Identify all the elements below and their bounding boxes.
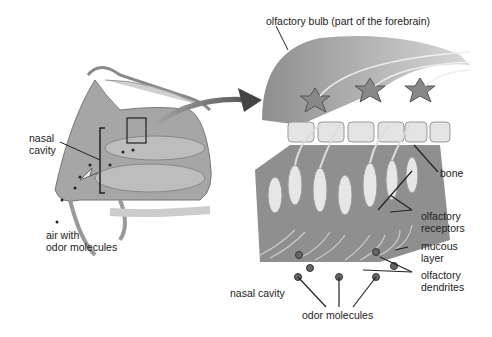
label-dendrites-1: olfactory	[421, 269, 461, 281]
label-mucous-2: layer	[421, 252, 444, 264]
label-nasal-cavity-left-2: cavity	[29, 144, 56, 156]
label-nasal-cavity-right: nasal cavity	[230, 287, 285, 299]
label-receptors-2: receptors	[421, 222, 465, 234]
label-dendrites-2: dendrites	[421, 281, 464, 293]
label-bone: bone	[440, 167, 463, 179]
label-air-with-2: odor molecules	[46, 241, 117, 253]
label-odor-molecules: odor molecules	[302, 309, 373, 321]
label-receptors-1: olfactory	[421, 210, 461, 222]
nose-cross-section	[55, 68, 211, 256]
olfactory-bulb	[262, 36, 470, 125]
label-olfactory-bulb: olfactory bulb (part of the forebrain)	[266, 15, 430, 27]
label-mucous-1: mucous	[421, 240, 458, 252]
label-nasal-cavity-left-1: nasal	[29, 132, 54, 144]
label-air-with-1: air with	[46, 229, 79, 241]
